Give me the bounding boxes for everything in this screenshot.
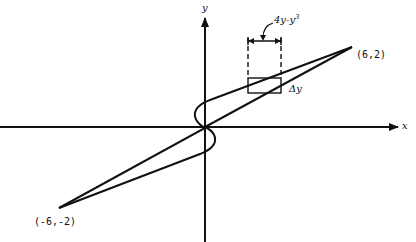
- diagram-canvas: [0, 0, 416, 242]
- dimension-arrowhead-right: [275, 38, 281, 44]
- width-label-text: 4y-y: [274, 14, 295, 25]
- width-label: 4y-y3: [274, 14, 300, 25]
- point-label-upper-right: (6,2): [356, 50, 386, 60]
- point-label-lower-left: (-6,-2): [34, 217, 76, 227]
- delta-y-label: Δy: [289, 84, 302, 94]
- dimension-arrowhead-left: [248, 38, 254, 44]
- width-label-exponent: 3: [295, 13, 299, 21]
- y-axis-label: y: [202, 3, 208, 13]
- x-axis-label: x: [402, 121, 408, 131]
